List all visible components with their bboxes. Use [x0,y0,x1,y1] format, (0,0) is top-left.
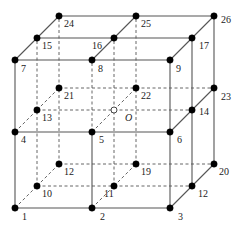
node-label: 3 [178,211,183,222]
lattice-node [56,161,62,167]
node-label: 22 [141,90,151,101]
node-label: 14 [199,106,209,117]
node-label: 2 [100,211,105,222]
node-label: 16 [92,40,102,51]
edge [170,110,192,132]
node-label: 8 [98,63,103,74]
lattice-node [89,205,95,211]
edge [192,164,214,186]
lattice-node [133,13,139,19]
lattice-node [133,85,139,91]
node-label: 7 [21,63,26,74]
edge [37,16,59,38]
lattice-nodes: 12345678910111213O1415161712192021222324… [12,13,231,222]
lattice-node [12,129,18,135]
node-label: 21 [64,90,74,101]
hidden-edge [114,164,136,186]
hidden-edge [15,186,37,208]
edge [15,38,37,60]
node-label: O [125,112,132,123]
hidden-edge [92,110,114,132]
lattice-node [12,57,18,63]
edge [114,16,136,38]
node-label: 11 [104,188,114,199]
lattice-node [189,35,195,41]
node-label: 17 [199,40,209,51]
node-label: 6 [177,134,182,145]
node-label: 4 [21,134,26,145]
node-label: 10 [42,188,52,199]
edge [192,16,214,38]
lattice-diagram: 12345678910111213O1415161712192021222324… [0,0,237,231]
node-label: 12 [198,188,208,199]
lattice-node [133,161,139,167]
node-label: 19 [141,166,151,177]
edge [170,186,192,208]
lattice-node [167,205,173,211]
lattice-node [89,57,95,63]
node-label: 20 [219,166,229,177]
node-label: 1 [22,211,27,222]
lattice-node [211,161,217,167]
lattice-node [167,57,173,63]
lattice-node [189,107,195,113]
lattice-node [167,129,173,135]
lattice-node [189,183,195,189]
node-label: 25 [141,18,151,29]
hidden-edge [37,164,59,186]
hidden-edge [15,110,37,132]
edge [170,38,192,60]
lattice-node [56,13,62,19]
center-node [111,107,117,113]
hidden-edge [37,88,59,110]
hidden-edge [114,88,136,110]
node-label: 26 [221,14,231,25]
lattice-node [111,35,117,41]
node-label: 15 [42,40,52,51]
lattice-node [56,85,62,91]
node-label: 5 [99,134,104,145]
lattice-node [89,129,95,135]
node-label: 24 [64,18,74,29]
node-label: 23 [221,91,231,102]
node-label: 13 [42,112,52,123]
lattice-node [211,13,217,19]
lattice-node [34,183,40,189]
node-label: 12 [64,166,74,177]
lattice-node [34,35,40,41]
lattice-node [211,85,217,91]
node-label: 9 [176,63,181,74]
lattice-node [12,205,18,211]
lattice-node [34,107,40,113]
